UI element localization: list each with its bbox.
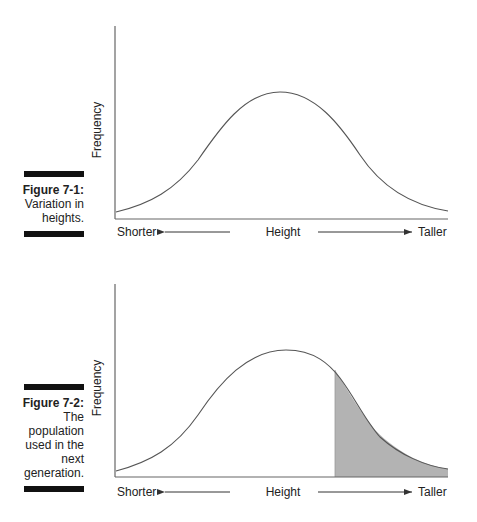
- bell-curve: [116, 92, 448, 212]
- x-right-label: Taller: [418, 225, 447, 239]
- chart-figure-7-2: Frequency Shorter Height Taller: [90, 284, 448, 499]
- shaded-tail-region: [335, 370, 448, 477]
- x-axis-label: Height: [266, 225, 301, 239]
- chart-figure-7-1: Frequency Shorter Height Taller: [90, 26, 448, 239]
- x-left-label: Shorter: [117, 225, 156, 239]
- x-axis-label: Height: [266, 485, 301, 499]
- charts-canvas: Frequency Shorter Height Taller Frequenc…: [0, 0, 477, 522]
- x-left-label: Shorter: [117, 485, 156, 499]
- x-right-label: Taller: [418, 485, 447, 499]
- y-axis-label: Frequency: [90, 102, 104, 159]
- y-axis-label: Frequency: [90, 360, 104, 417]
